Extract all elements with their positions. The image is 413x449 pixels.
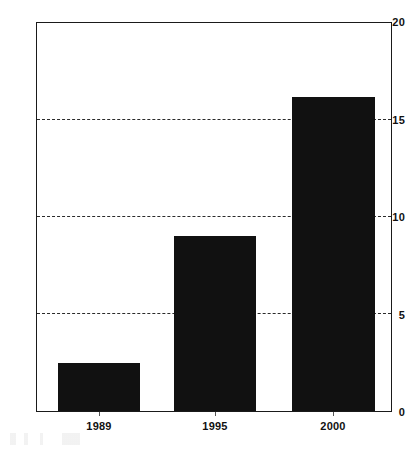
x-tick-label-1995: 1995	[202, 420, 227, 432]
y-tick-label-20: 20	[392, 16, 405, 28]
bar-1989[interactable]	[58, 363, 140, 412]
bar-2000[interactable]	[292, 97, 375, 411]
plot-area	[36, 22, 392, 412]
bar-1995[interactable]	[174, 236, 256, 411]
y-tick-label-15: 15	[392, 114, 405, 126]
y-tick-label-5: 5	[399, 309, 405, 321]
scan-artifact	[10, 433, 130, 445]
y-tick-label-10: 10	[392, 211, 405, 223]
bar-chart: 20 15 10 5 0 1989 1995 2000	[0, 0, 413, 449]
x-tick-mark-2000	[333, 412, 334, 416]
x-tick-label-2000: 2000	[320, 420, 345, 432]
x-tick-mark-1989	[99, 412, 100, 416]
y-tick-label-0: 0	[399, 406, 405, 418]
x-tick-mark-1995	[215, 412, 216, 416]
x-tick-label-1989: 1989	[86, 420, 111, 432]
